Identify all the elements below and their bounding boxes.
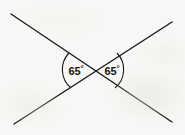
right-angle-value: 65 bbox=[105, 65, 117, 77]
left-angle-label: 65° bbox=[69, 65, 84, 78]
geometry-figure: 65° 65° bbox=[0, 0, 185, 135]
intersecting-lines-diagram bbox=[0, 0, 185, 135]
line-top-left-to-bottom-right bbox=[11, 14, 172, 122]
right-angle-label: 65° bbox=[105, 65, 120, 78]
left-angle-value: 65 bbox=[69, 65, 81, 77]
line-bottom-left-to-top-right bbox=[14, 22, 172, 124]
right-angle-degree-symbol: ° bbox=[116, 64, 119, 73]
left-angle-degree-symbol: ° bbox=[80, 64, 83, 73]
